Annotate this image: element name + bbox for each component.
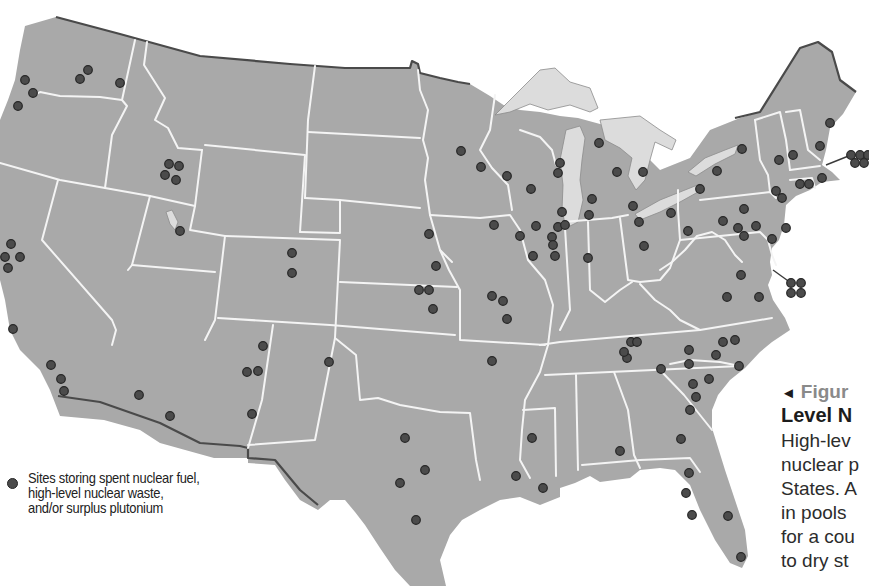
legend-text: Sites storing spent nuclear fuel, high-l… xyxy=(28,470,199,515)
site-marker xyxy=(639,168,648,177)
site-marker xyxy=(682,489,691,498)
site-marker xyxy=(432,262,441,271)
site-marker xyxy=(738,145,747,154)
site-marker xyxy=(818,174,827,183)
site-marker xyxy=(640,242,649,251)
site-marker xyxy=(712,351,721,360)
site-marker xyxy=(719,217,728,226)
site-marker xyxy=(14,102,23,111)
site-marker xyxy=(176,227,185,236)
site-marker xyxy=(772,187,781,196)
site-marker xyxy=(723,293,732,302)
site-marker xyxy=(737,553,746,562)
site-marker xyxy=(685,469,694,478)
site-marker xyxy=(685,346,694,355)
site-marker xyxy=(633,338,642,347)
site-marker xyxy=(4,264,13,273)
site-marker xyxy=(635,218,644,227)
legend-line-2: high-level nuclear waste, xyxy=(28,485,199,500)
left-pointer-icon: ◄ xyxy=(781,384,796,401)
site-marker xyxy=(613,168,622,177)
site-marker xyxy=(684,227,693,236)
figure-body-line-3: States. A xyxy=(781,477,869,501)
site-marker xyxy=(457,147,466,156)
site-marker xyxy=(775,156,784,165)
site-marker xyxy=(165,160,174,169)
site-marker xyxy=(161,171,170,180)
site-marker xyxy=(288,249,297,258)
site-marker xyxy=(7,240,16,249)
site-marker xyxy=(667,209,676,218)
site-marker xyxy=(719,338,728,347)
figure-body-line-4: in pools xyxy=(781,501,869,525)
site-marker xyxy=(677,435,686,444)
site-marker xyxy=(629,202,638,211)
site-marker xyxy=(243,368,252,377)
site-marker xyxy=(175,162,184,171)
site-marker xyxy=(558,208,567,217)
site-marker xyxy=(396,479,405,488)
site-marker xyxy=(734,224,743,233)
site-marker xyxy=(816,142,825,151)
site-marker xyxy=(755,293,764,302)
massachusetts-cluster-marker xyxy=(856,151,865,160)
site-marker xyxy=(254,367,263,376)
site-marker xyxy=(692,393,701,402)
site-marker xyxy=(556,159,565,168)
site-marker xyxy=(696,185,705,194)
site-marker xyxy=(595,139,604,148)
site-marker xyxy=(737,271,746,280)
maryland-cluster-marker xyxy=(787,289,796,298)
site-marker xyxy=(789,151,798,160)
site-marker xyxy=(259,342,268,351)
massachusetts-cluster-marker xyxy=(847,151,856,160)
site-marker xyxy=(724,512,733,521)
figure-title: Level N xyxy=(781,404,869,427)
maryland-cluster-marker xyxy=(797,279,806,288)
site-marker xyxy=(826,119,835,128)
site-marker xyxy=(585,211,594,220)
site-marker xyxy=(401,434,410,443)
site-marker xyxy=(172,176,181,185)
site-marker xyxy=(782,224,791,233)
site-marker xyxy=(686,406,695,415)
site-marker xyxy=(705,375,714,384)
site-marker xyxy=(805,180,814,189)
site-marker xyxy=(688,511,697,520)
site-marker xyxy=(288,269,297,278)
site-marker xyxy=(620,348,629,357)
site-marker xyxy=(488,292,497,301)
site-marker xyxy=(9,325,18,334)
site-marker xyxy=(731,336,740,345)
site-marker xyxy=(490,221,499,230)
site-marker xyxy=(616,447,625,456)
figure-body-line-5: for a cou xyxy=(781,525,869,549)
site-marker xyxy=(588,195,597,204)
site-marker xyxy=(512,472,521,481)
site-marker xyxy=(76,75,85,84)
site-marker xyxy=(135,391,144,400)
site-marker xyxy=(84,66,93,75)
maryland-cluster-marker xyxy=(787,279,796,288)
site-marker xyxy=(21,76,30,85)
site-marker xyxy=(60,387,69,396)
site-marker xyxy=(516,232,525,241)
site-dot-icon xyxy=(7,478,18,489)
site-marker xyxy=(503,315,512,324)
site-marker xyxy=(554,169,563,178)
site-marker xyxy=(425,286,434,295)
site-marker xyxy=(412,516,421,525)
legend-line-3: and/or surplus plutonium xyxy=(28,500,199,515)
site-marker xyxy=(325,358,334,367)
site-marker xyxy=(488,357,497,366)
site-marker xyxy=(778,194,787,203)
site-marker xyxy=(735,362,744,371)
site-marker xyxy=(116,79,125,88)
site-marker xyxy=(429,305,438,314)
site-marker xyxy=(796,180,805,189)
site-marker xyxy=(689,380,698,389)
site-marker xyxy=(657,365,666,374)
site-marker xyxy=(539,484,548,493)
site-marker xyxy=(551,252,560,261)
site-marker xyxy=(503,172,512,181)
